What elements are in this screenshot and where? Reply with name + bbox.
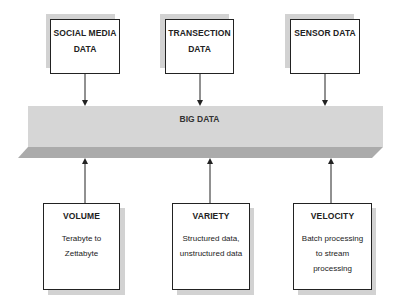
big-data-band	[28, 106, 383, 147]
big-data-band-front	[18, 147, 383, 158]
characteristic-title: VOLUME	[44, 204, 119, 224]
source-transection: TRANSECTION DATA	[165, 19, 234, 74]
characteristic-title: VELOCITY	[294, 204, 371, 224]
characteristic-description: Terabyte to Zettabyte	[44, 231, 119, 261]
characteristic-volume: VOLUME Terabyte to Zettabyte	[43, 203, 120, 290]
source-label: SOCIAL MEDIA DATA	[51, 20, 119, 57]
source-label: TRANSECTION DATA	[166, 20, 233, 57]
characteristic-description: Structured data, unstructured data	[173, 231, 249, 261]
characteristic-title: VARIETY	[173, 204, 249, 224]
characteristic-variety: VARIETY Structured data, unstructured da…	[172, 203, 250, 290]
characteristic-velocity: VELOCITY Batch processing to stream proc…	[293, 203, 372, 290]
characteristic-description: Batch processing to stream processing	[294, 231, 371, 276]
source-social-media: SOCIAL MEDIA DATA	[50, 19, 120, 74]
source-sensor: SENSOR DATA	[290, 19, 360, 74]
source-label: SENSOR DATA	[291, 20, 359, 41]
big-data-label: BIG DATA	[0, 114, 399, 124]
